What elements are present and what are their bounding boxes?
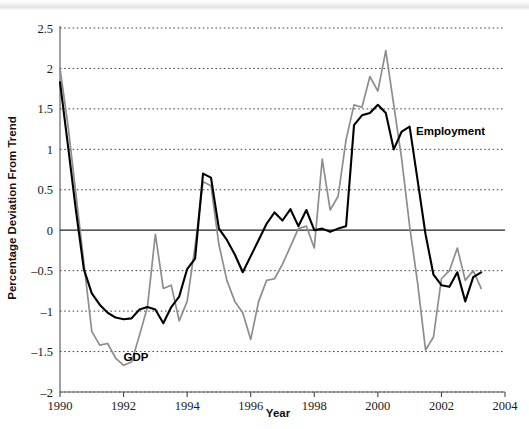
axes-group: [60, 26, 505, 392]
y-tick-label: 1: [47, 143, 53, 157]
line-chart: 2.521.510.50–0.5–1–1.5–2 199019921994199…: [0, 0, 529, 429]
y-tick-label: –1: [40, 305, 54, 319]
y-tick-label: 0.5: [37, 183, 53, 197]
y-tick-labels: 2.521.510.50–0.5–1–1.5–2: [30, 22, 53, 400]
page-top-edge: [0, 0, 529, 10]
y-tick-label: 2: [47, 62, 53, 76]
y-tick-label: –2: [40, 386, 54, 400]
y-tick-label: 2.5: [37, 22, 53, 36]
y-tick-label: –1.5: [30, 345, 53, 359]
x-axis-title: Year: [266, 407, 291, 419]
x-tick-label: 2002: [429, 399, 454, 413]
tickmarks-group: [60, 392, 505, 397]
y-tick-label: –0.5: [30, 264, 53, 278]
annotation-gdp: GDP: [124, 351, 149, 363]
gridlines-group: [60, 28, 505, 392]
x-tick-label: 1990: [48, 399, 73, 413]
annotation-employment: Employment: [416, 125, 485, 137]
x-tick-label: 1992: [111, 399, 136, 413]
y-axis-title: Percentage Deviation From Trend: [6, 116, 18, 299]
x-tick-label: 1996: [238, 399, 263, 413]
series-group: [60, 51, 481, 366]
chart-container: 2.521.510.50–0.5–1–1.5–2 199019921994199…: [0, 0, 529, 429]
x-tick-label: 2000: [365, 399, 390, 413]
x-tick-label: 1994: [175, 399, 201, 413]
y-tick-label: 1.5: [37, 102, 53, 116]
x-tick-label: 1998: [302, 399, 327, 413]
x-tick-label: 2004: [493, 399, 519, 413]
y-tick-label: 0: [47, 224, 53, 238]
series-annotations: GDPEmployment: [124, 125, 486, 363]
